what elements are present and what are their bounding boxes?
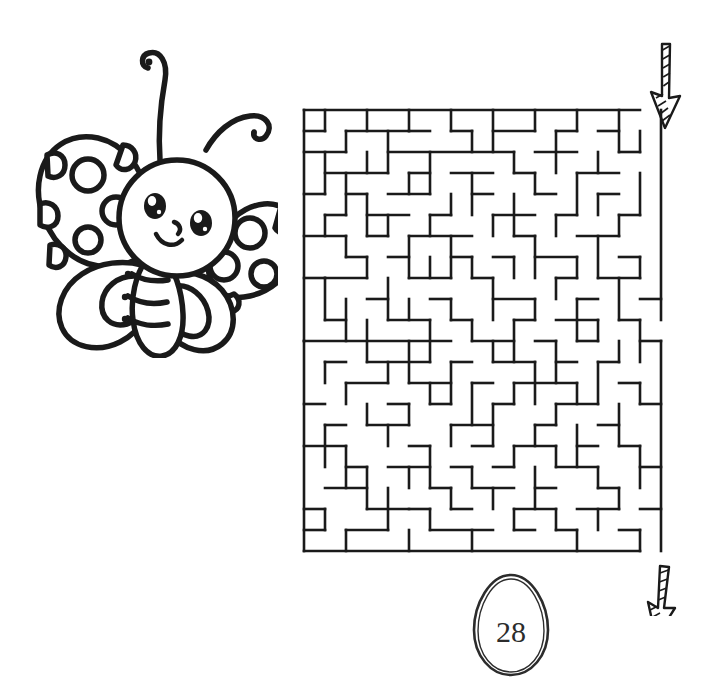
butterfly-head bbox=[119, 160, 235, 276]
right-eye bbox=[190, 210, 212, 236]
exit-arrow bbox=[648, 566, 675, 616]
maze-walls bbox=[304, 110, 661, 551]
butterfly-illustration bbox=[18, 28, 278, 358]
left-antenna-curl bbox=[142, 53, 165, 160]
activity-page: 28 bbox=[0, 0, 724, 697]
maze-puzzle bbox=[292, 36, 712, 616]
left-eye bbox=[144, 193, 166, 219]
page-number-text: 28 bbox=[496, 615, 526, 648]
page-number-badge: 28 bbox=[456, 568, 566, 683]
right-antenna-curl bbox=[206, 116, 269, 150]
entry-arrow bbox=[651, 44, 680, 128]
